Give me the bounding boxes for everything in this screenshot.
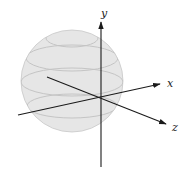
diagram-canvas: y x z (0, 0, 189, 181)
z-axis-label: z (171, 121, 178, 134)
x-axis-label: x (167, 77, 174, 90)
y-axis-label: y (100, 7, 108, 20)
sphere (21, 29, 123, 132)
